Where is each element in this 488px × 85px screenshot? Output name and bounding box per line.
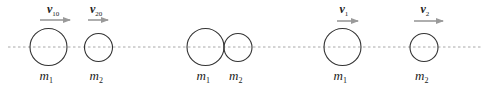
mass-label-m2-subscript: 2 <box>424 76 428 85</box>
mass-label-m2: m2 <box>415 68 428 85</box>
velocity-label-v10-subscript: 10 <box>52 10 59 18</box>
mass-label-m2: m2 <box>90 68 103 85</box>
mass-label-m1-subscript: 1 <box>49 76 53 85</box>
velocity-label-v1: v1 <box>340 2 349 18</box>
velocity-label-v2: v2 <box>421 2 430 18</box>
mass-label-m2-symbol: m <box>415 68 424 83</box>
mass-label-m1-symbol: m <box>334 68 343 83</box>
mass-label-m1-symbol: m <box>197 68 206 83</box>
velocity-label-v10: v10 <box>47 2 59 18</box>
mass-label-m1-symbol: m <box>40 68 49 83</box>
velocity-label-v2-subscript: 2 <box>426 10 430 18</box>
mass-label-m1-subscript: 1 <box>206 76 210 85</box>
mass-label-m1: m1 <box>197 68 210 85</box>
mass-label-m1-subscript: 1 <box>343 76 347 85</box>
mass-label-m2-subscript: 2 <box>99 76 103 85</box>
mass-label-m2-symbol: m <box>90 68 99 83</box>
mass-label-m2-symbol: m <box>229 68 238 83</box>
velocity-label-v1-subscript: 1 <box>345 10 349 18</box>
velocity-label-v20-subscript: 20 <box>95 10 102 18</box>
mass-label-m1: m1 <box>40 68 53 85</box>
velocity-label-v20: v20 <box>90 2 102 18</box>
mass-label-m1: m1 <box>334 68 347 85</box>
mass-label-m2: m2 <box>229 68 242 85</box>
mass-label-m2-subscript: 2 <box>238 76 242 85</box>
